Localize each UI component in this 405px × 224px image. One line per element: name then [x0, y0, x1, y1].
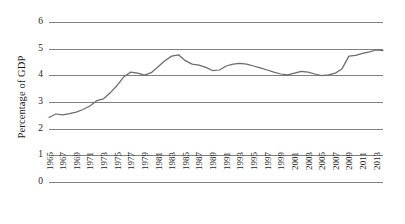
x-tick-label-2009: 2009 — [345, 152, 354, 186]
x-tick-label-1977: 1977 — [127, 152, 136, 186]
y-tick-label-4: 4 — [30, 71, 43, 81]
y-tick-label-6: 6 — [30, 17, 43, 27]
x-tick-label-2005: 2005 — [318, 152, 327, 186]
y-axis-title: Percentage of GDP — [14, 4, 28, 190]
x-tick-label-1965: 1965 — [46, 152, 55, 186]
x-tick-label-1999: 1999 — [277, 152, 286, 186]
chart-container: Percentage of GDP 0123456 19651967196919… — [0, 0, 405, 224]
x-tick-label-1975: 1975 — [114, 152, 123, 186]
x-tick-label-1973: 1973 — [100, 152, 109, 186]
y-tick-label-3: 3 — [30, 97, 43, 107]
x-tick-label-1983: 1983 — [168, 152, 177, 186]
x-tick-label-1991: 1991 — [223, 152, 232, 186]
x-tick-label-1971: 1971 — [86, 152, 95, 186]
x-tick-label-2003: 2003 — [305, 152, 314, 186]
x-tick-label-2007: 2007 — [332, 152, 341, 186]
x-tick-label-2011: 2011 — [359, 152, 368, 186]
x-tick-label-1989: 1989 — [209, 152, 218, 186]
x-tick-label-1985: 1985 — [182, 152, 191, 186]
x-tick-label-1997: 1997 — [264, 152, 273, 186]
x-tick-label-1969: 1969 — [73, 152, 82, 186]
y-tick-label-5: 5 — [30, 44, 43, 54]
x-tick-label-1979: 1979 — [141, 152, 150, 186]
x-tick-label-1987: 1987 — [195, 152, 204, 186]
y-tick-label-1: 1 — [30, 151, 43, 161]
x-tick-label-1993: 1993 — [236, 152, 245, 186]
x-tick-label-1995: 1995 — [250, 152, 259, 186]
y-tick-label-2: 2 — [30, 124, 43, 134]
x-tick-label-1981: 1981 — [155, 152, 164, 186]
y-tick-label-0: 0 — [30, 177, 43, 187]
x-tick-label-2001: 2001 — [291, 152, 300, 186]
x-tick-label-2013: 2013 — [373, 152, 382, 186]
series-polyline — [49, 50, 383, 117]
x-tick-label-1967: 1967 — [59, 152, 68, 186]
